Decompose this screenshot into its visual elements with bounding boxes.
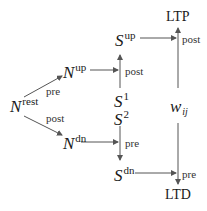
node-n-rest: Nrest [10, 96, 38, 115]
node-ltp: LTP [166, 10, 190, 24]
edge-label-post: post [182, 34, 200, 45]
node-s-up: Sup [115, 30, 136, 49]
edge-label-post: post [46, 113, 64, 124]
node-n-dn: Ndn [63, 133, 86, 152]
node-ltd: LTD [165, 188, 191, 202]
edge-label-pre: pre [125, 138, 139, 149]
plasticity-state-diagram: Nrest Nup Ndn Sup S1 S2 Sdn wij LTP LTD … [0, 0, 207, 211]
node-s2: S2 [114, 109, 129, 128]
node-s-dn: Sdn [114, 165, 135, 184]
edge-label-post: post [125, 66, 143, 77]
node-n-up: Nup [63, 62, 86, 81]
edge-label-pre: pre [46, 86, 60, 97]
edge-label-pre: pre [182, 169, 196, 180]
node-w-ij: wij [170, 98, 188, 117]
